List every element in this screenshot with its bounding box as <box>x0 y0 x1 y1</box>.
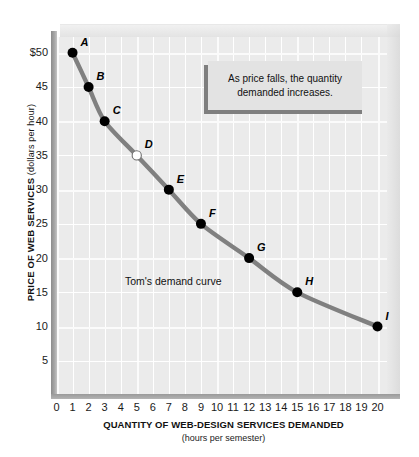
callout-text-line1: As price falls, the quantity <box>228 73 342 84</box>
callout-text-line2: demanded increases. <box>237 87 333 98</box>
data-point-label-e: E <box>177 174 184 185</box>
callout-box: As price falls, the quantity demanded in… <box>204 61 362 114</box>
data-point-label-c: C <box>113 105 121 116</box>
data-point-label-b: B <box>97 71 105 82</box>
data-point-label-g: G <box>257 242 266 253</box>
callout-shadow-bottom <box>204 110 362 114</box>
callout-box-face: As price falls, the quantity demanded in… <box>208 61 362 110</box>
callout-text: As price falls, the quantity demanded in… <box>222 72 348 100</box>
data-point-label-i: I <box>386 311 389 322</box>
data-point-label-h: H <box>305 276 313 287</box>
data-point-label-f: F <box>209 208 216 219</box>
curve-annotation-label: Tom's demand curve <box>125 275 222 287</box>
data-point-label-d: D <box>145 139 153 150</box>
demand-curve-figure: $5045403530252015105 0123456789101112131… <box>0 0 419 457</box>
data-point-label-a: A <box>81 37 89 48</box>
